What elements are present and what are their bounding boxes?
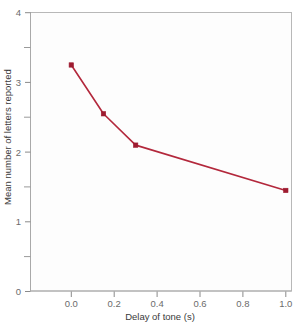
y-tick-label-1: 1: [16, 216, 21, 227]
y-axis-major-ticks: [25, 13, 31, 292]
x-tick-label-2: 0.4: [150, 298, 163, 309]
data-point-marker: [284, 188, 288, 192]
data-point-marker: [101, 112, 105, 116]
y-tick-label-3: 3: [16, 77, 21, 88]
x-tick-label-0: 0.0: [65, 298, 78, 309]
x-tick-label-1: 0.2: [108, 298, 121, 309]
x-axis-title: Delay of tone (s): [125, 311, 195, 322]
x-tick-label-4: 0.8: [236, 298, 249, 309]
x-tick-label-3: 0.6: [193, 298, 206, 309]
y-tick-label-0: 0: [16, 286, 21, 297]
y-tick-label-2: 2: [16, 147, 21, 158]
y-axis-title: Mean number of letters reported: [2, 69, 13, 205]
plot-frame: [31, 13, 292, 292]
data-point-marker: [133, 143, 137, 147]
data-point-marker: [69, 63, 73, 67]
line-chart: 0 1 2 3 4 Mean number of letters reporte…: [0, 0, 300, 322]
x-axis-major-ticks: [71, 292, 285, 298]
y-tick-label-4: 4: [16, 7, 21, 18]
x-tick-label-5: 1.0: [279, 298, 292, 309]
chart-figure: 0 1 2 3 4 Mean number of letters reporte…: [0, 0, 300, 322]
